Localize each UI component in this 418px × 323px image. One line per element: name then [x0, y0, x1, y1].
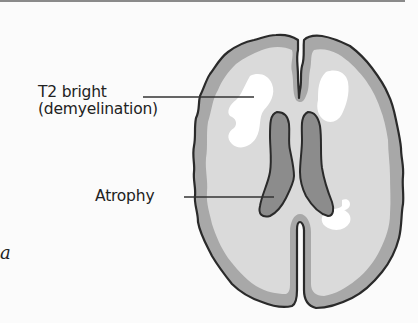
- brain-outline: [193, 35, 403, 308]
- t2-bright-label-line2: (demyelination): [38, 101, 158, 118]
- t2-bright-label: T2 bright (demyelination): [38, 84, 158, 118]
- atrophy-label-text: Atrophy: [95, 188, 154, 205]
- panel-letter: a: [0, 244, 11, 262]
- brain-diagram: [0, 0, 418, 323]
- t2-bright-label-line1: T2 bright: [38, 84, 158, 101]
- atrophy-label: Atrophy: [95, 188, 154, 205]
